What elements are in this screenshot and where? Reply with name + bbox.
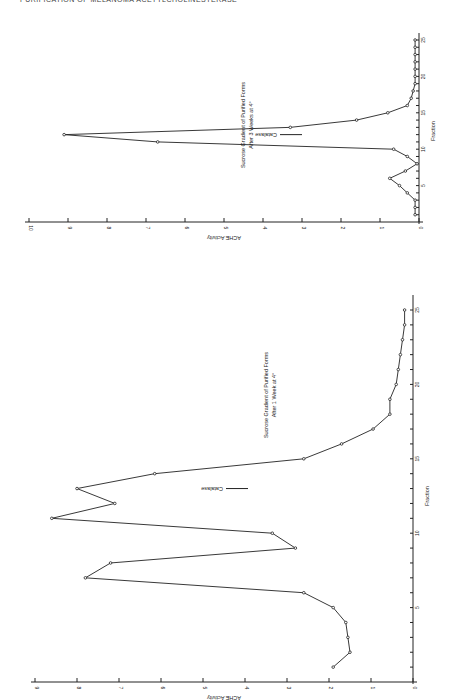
three-weeks-value-axis-title: ACHE Activity [207, 235, 241, 241]
one-week-data-point [372, 428, 375, 431]
three-weeks-data-point [406, 192, 409, 195]
one-week-data-point [114, 502, 117, 505]
one-week-data-point [303, 458, 306, 461]
three-weeks-data-point [414, 82, 417, 85]
three-weeks-data-point [414, 68, 417, 71]
one-week-data-point [397, 368, 400, 371]
one-week-value-axis-title: ACHE Activity [207, 695, 241, 700]
three-weeks-data-point [414, 206, 417, 209]
one-week-data-point [340, 443, 343, 446]
three-weeks-value-tick-label: 6 [184, 227, 190, 230]
three-weeks-data-point [416, 162, 419, 165]
one-week-value-tick-label: 8 [76, 687, 82, 690]
one-week-value-tick-label: 6 [160, 687, 166, 690]
three-weeks-chart-title: Sucrose Gradient of Purified Forms [240, 82, 246, 168]
three-weeks-value-tick-label: 5 [223, 227, 229, 230]
three-weeks-data-point [355, 119, 358, 122]
three-weeks-fraction-tick-label: 25 [420, 37, 426, 43]
three-weeks-data-point [156, 141, 159, 144]
three-weeks-data-point [392, 148, 395, 151]
three-weeks-catalase-label: Catalase [255, 132, 277, 138]
one-week-data-point [76, 487, 79, 490]
one-week-fraction-tick-label: 15 [414, 456, 420, 462]
one-week-data-point [389, 398, 392, 401]
one-week-data-point [332, 666, 335, 669]
three-weeks-data-point [414, 46, 417, 49]
one-week-value-tick-label: 2 [328, 687, 334, 690]
one-week-fraction-tick-label: 25 [414, 307, 420, 313]
three-weeks-chart-subtitle: After 3 Weeks at 4° [248, 101, 254, 148]
three-weeks-data-point [398, 184, 401, 187]
one-week-data-point [84, 577, 87, 580]
three-weeks-data-point [410, 97, 413, 100]
three-weeks-data-point [406, 155, 409, 158]
one-week-catalase-label: Catalase [201, 486, 223, 492]
one-week-data-point [399, 353, 402, 356]
three-weeks-data-point [414, 53, 417, 56]
three-weeks-value-tick-label: 7 [145, 227, 151, 230]
three-weeks-value-tick-label: 8 [106, 227, 112, 230]
three-weeks-data-point [406, 104, 409, 107]
charts-canvas: 012345678910510152025ACHE ActivityFracti… [0, 0, 456, 700]
one-week-data-point [401, 338, 404, 341]
one-week-fraction-tick-label: 5 [414, 606, 420, 609]
one-week-fraction-axis-title: Fraction [424, 486, 430, 506]
one-week-fraction-tick-label: 10 [414, 530, 420, 536]
one-week-value-tick-label: 4 [244, 687, 250, 690]
three-weeks-value-tick-label: 0 [418, 227, 424, 230]
three-weeks-data-point [414, 213, 417, 216]
one-week-value-tick-label: 1 [370, 687, 376, 690]
one-week-value-tick-label: 9 [34, 687, 40, 690]
one-week-fraction-tick-label: 20 [414, 381, 420, 387]
three-weeks-fraction-tick-label: 10 [420, 146, 426, 152]
three-weeks-fraction-tick-label: 5 [420, 184, 426, 187]
one-week-data-point [271, 532, 274, 535]
one-week-data-point [403, 309, 406, 312]
three-weeks-data-point [412, 90, 415, 93]
one-week-value-tick-label: 7 [118, 687, 124, 690]
three-weeks-data-point [414, 39, 417, 42]
three-weeks-data-point [388, 177, 391, 180]
three-weeks-fraction-tick-label: 20 [420, 73, 426, 79]
one-week-data-point [332, 606, 335, 609]
three-weeks-data-point [404, 170, 407, 173]
one-week-data-point [347, 636, 350, 639]
three-weeks-fraction-tick-label: 15 [420, 110, 426, 116]
one-week-data-point [345, 621, 348, 624]
three-weeks-data-point [387, 112, 390, 115]
three-weeks-value-tick-label: 2 [340, 227, 346, 230]
three-weeks-value-tick-label: 3 [301, 227, 307, 230]
three-weeks-value-tick-label: 9 [67, 227, 73, 230]
one-week-value-tick-label: 0 [412, 687, 418, 690]
one-week-value-tick-label: 5 [202, 687, 208, 690]
one-week-chart-title: Sucrose Gradient of Purified Forms [263, 352, 269, 438]
one-week-data-point [349, 651, 352, 654]
three-weeks-data-point [289, 126, 292, 129]
three-weeks-fraction-axis-title: Fraction [430, 121, 436, 141]
one-week-data-point [395, 383, 398, 386]
one-week-data-point [294, 547, 297, 550]
three-weeks-data-point [414, 199, 417, 202]
one-week-data-point [389, 413, 392, 416]
one-week-chart-subtitle: After 1 Week at 4° [271, 373, 277, 418]
one-week-data-point [403, 324, 406, 327]
one-week-value-tick-label: 3 [286, 687, 292, 690]
one-week-data-point [153, 472, 156, 475]
three-weeks-value-tick-label: 1 [379, 227, 385, 230]
one-week-data-point [51, 517, 54, 520]
three-weeks-value-tick-label: 10 [28, 225, 34, 231]
one-week-data-point [303, 591, 306, 594]
three-weeks-data-point [414, 61, 417, 64]
three-weeks-data-point [414, 75, 417, 78]
three-weeks-value-tick-label: 4 [262, 227, 268, 230]
three-weeks-data-point [63, 133, 66, 136]
one-week-data-point [109, 562, 112, 565]
